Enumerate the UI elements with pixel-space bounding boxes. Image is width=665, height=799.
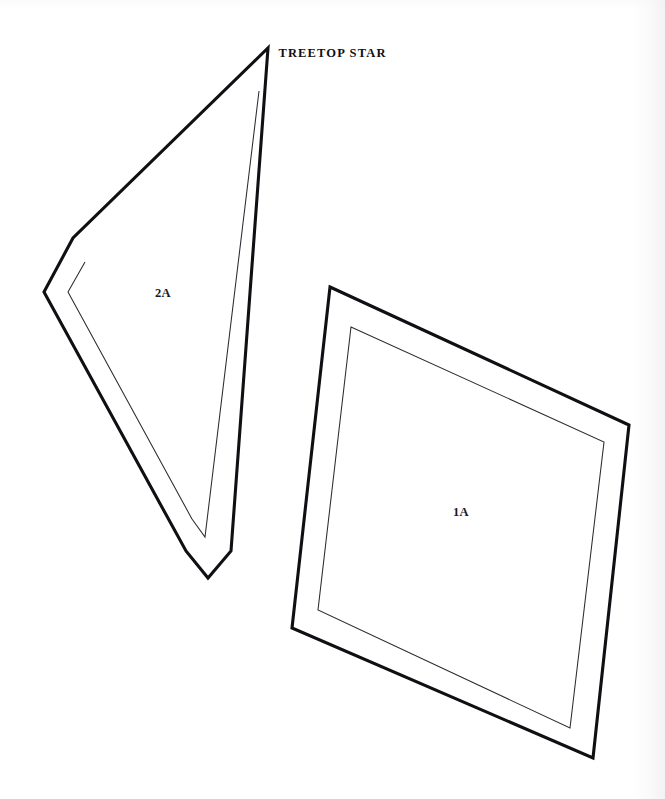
piece-1a-outline: [292, 287, 629, 758]
piece-2a-label: 2A: [155, 286, 171, 300]
piece-2a-group: 2A: [44, 48, 268, 578]
piece-1a-group: 1A: [292, 287, 629, 758]
piece-2a-outline: [44, 48, 268, 578]
pattern-sheet: TREETOP STAR 2A 1A: [0, 0, 665, 799]
piece-1a-label: 1A: [453, 505, 469, 519]
pattern-diagram: 2A 1A: [0, 0, 665, 799]
